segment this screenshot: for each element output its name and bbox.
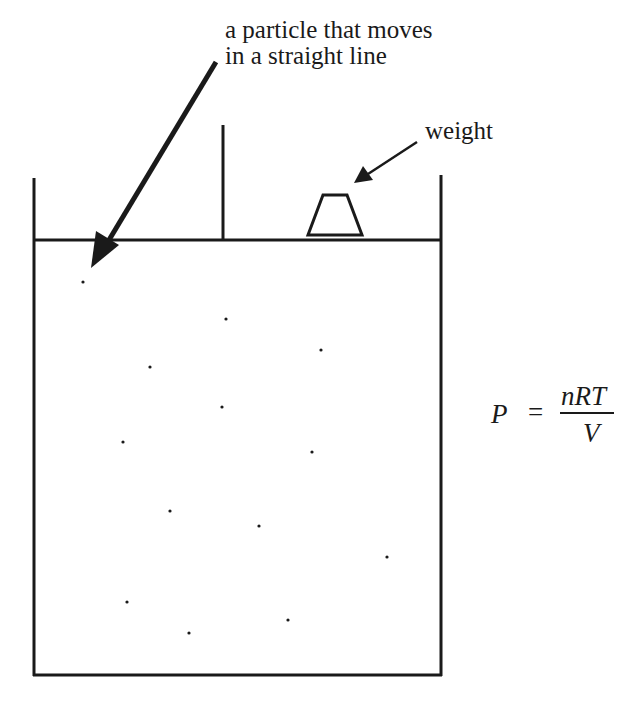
weight-block — [308, 195, 362, 235]
gas-particles — [81, 280, 388, 634]
gas-particle — [187, 631, 190, 634]
gas-particle — [385, 555, 388, 558]
equation-denominator: V — [583, 418, 600, 449]
gas-particle — [310, 450, 313, 453]
weight-arrowhead-icon — [354, 166, 373, 183]
gas-particle — [121, 440, 124, 443]
gas-particle — [81, 280, 84, 283]
gas-particle — [286, 618, 289, 621]
particle-annotation-line-1: a particle that moves — [225, 17, 433, 43]
gas-particle — [224, 317, 227, 320]
particle-arrowhead-icon — [91, 231, 119, 268]
weight-annotation: weight — [425, 118, 493, 143]
piston — [34, 125, 441, 240]
gas-cylinder-diagram — [0, 0, 643, 706]
equation-fraction-bar — [560, 412, 614, 414]
particle-annotation: a particle that moves in a straight line — [225, 17, 433, 69]
gas-particle — [319, 348, 322, 351]
gas-particle — [220, 405, 223, 408]
gas-particle — [148, 365, 151, 368]
equation-pressure: P — [491, 399, 508, 430]
gas-particle — [257, 524, 260, 527]
equation-equals: = — [528, 397, 543, 428]
weight-arrow — [354, 142, 417, 183]
particle-annotation-line-2: in a straight line — [225, 43, 433, 69]
gas-particle — [168, 509, 171, 512]
equation-numerator: nRT — [561, 381, 606, 412]
particle-arrow — [91, 62, 216, 268]
gas-particle — [125, 600, 128, 603]
